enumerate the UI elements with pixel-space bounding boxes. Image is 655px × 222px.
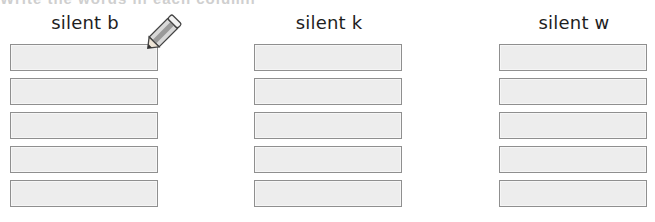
pencil-icon bbox=[140, 8, 188, 56]
answer-box[interactable] bbox=[10, 44, 158, 71]
answer-box[interactable] bbox=[254, 112, 402, 139]
answer-box[interactable] bbox=[499, 78, 647, 105]
answer-box[interactable] bbox=[499, 44, 647, 71]
answer-box[interactable] bbox=[254, 44, 402, 71]
answer-box[interactable] bbox=[10, 78, 158, 105]
answer-box[interactable] bbox=[499, 112, 647, 139]
column-heading: silent b bbox=[10, 12, 160, 33]
worksheet-title-clipped: Write the words in each column bbox=[0, 0, 655, 4]
column-heading: silent k bbox=[254, 12, 404, 33]
answer-box[interactable] bbox=[254, 78, 402, 105]
answer-box[interactable] bbox=[254, 146, 402, 173]
answer-box[interactable] bbox=[10, 146, 158, 173]
answer-box[interactable] bbox=[10, 180, 158, 207]
answer-box[interactable] bbox=[499, 146, 647, 173]
answer-box[interactable] bbox=[10, 112, 158, 139]
column-heading: silent w bbox=[499, 12, 649, 33]
answer-box[interactable] bbox=[499, 180, 647, 207]
answer-box[interactable] bbox=[254, 180, 402, 207]
